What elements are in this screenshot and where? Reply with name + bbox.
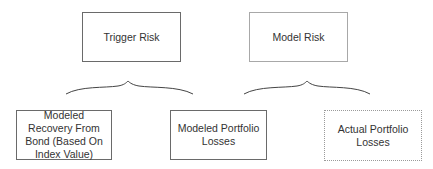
modeled-losses-label: Modeled Portfolio Losses [177, 122, 260, 148]
actual-losses-box: Actual Portfolio Losses [324, 110, 422, 161]
actual-losses-label: Actual Portfolio Losses [337, 123, 409, 149]
modeled-recovery-label: Modeled Recovery From Bond (Based On Ind… [21, 109, 107, 161]
modeled-recovery-box: Modeled Recovery From Bond (Based On Ind… [16, 110, 112, 160]
modeled-losses-box: Modeled Portfolio Losses [170, 110, 267, 160]
